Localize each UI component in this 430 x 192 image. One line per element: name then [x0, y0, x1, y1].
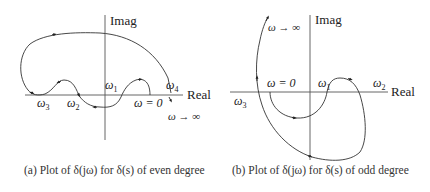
- panel-a-omega-inf-label: ω → ∞: [168, 110, 200, 122]
- panel-b-plot: Imag Real ω = 0 ω1 ω2 ω3 ω → ∞: [230, 12, 415, 160]
- direction-arrow-icon: [169, 97, 171, 101]
- panel-b-real-label: Real: [391, 84, 415, 99]
- direction-arrow-icon: [348, 79, 351, 80]
- panel-a-plot: Imag Real ω1 ω2 ω3 ω4 ω = 0 ω → ∞: [21, 13, 211, 140]
- panel-a-omega4-label: ω4: [166, 78, 178, 94]
- panel-b-omega-inf-label: ω → ∞: [268, 21, 300, 33]
- panel-b-omega-zero-label: ω = 0: [267, 76, 296, 90]
- panel-a-omega-zero-label: ω = 0: [134, 96, 163, 110]
- panel-b-omega1-label: ω1: [318, 76, 330, 92]
- panel-a-caption: (a) Plot of δ(jω) for δ(s) of even degre…: [24, 164, 205, 176]
- panel-b-omega2-label: ω2: [373, 76, 385, 92]
- panel-b-omega3-label: ω3: [234, 94, 246, 110]
- panel-a-omega3-label: ω3: [37, 96, 49, 112]
- panel-b-caption: (b) Plot of δ(jω) for δ(s) of odd degree: [232, 164, 409, 176]
- panel-a-imag-label: Imag: [110, 13, 137, 28]
- panel-b-imag-label: Imag: [315, 12, 342, 27]
- direction-arrow-icon: [309, 156, 312, 157]
- direction-arrow-icon: [52, 34, 55, 35]
- panel-a-omega2-label: ω2: [67, 96, 79, 112]
- panel-a-omega1-label: ω1: [105, 78, 117, 94]
- panel-a-real-label: Real: [187, 87, 211, 102]
